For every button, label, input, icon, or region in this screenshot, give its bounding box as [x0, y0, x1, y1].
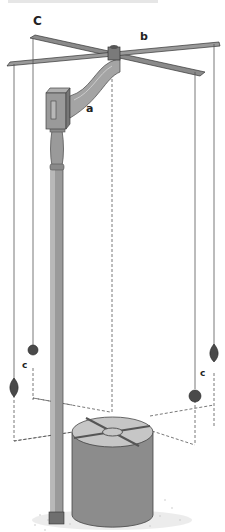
- illustration: [0, 0, 225, 532]
- cropped-caption-fragment: [8, 0, 158, 3]
- plumb-bobs: [10, 344, 218, 402]
- label-arm-a: a: [86, 103, 93, 114]
- ground-plan-dashes: [14, 74, 214, 445]
- label-plumb-left: c: [22, 361, 27, 370]
- bracket-block: [46, 88, 70, 129]
- groma-diagram: C b a c c: [0, 0, 225, 532]
- cylindrical-base: [72, 417, 153, 527]
- label-plumb-right: c: [200, 369, 205, 378]
- label-corner-c: C: [33, 15, 42, 27]
- label-cross-b: b: [140, 31, 148, 42]
- plumb-lines: [14, 38, 214, 389]
- arm-a: [70, 58, 120, 118]
- post: [49, 127, 65, 524]
